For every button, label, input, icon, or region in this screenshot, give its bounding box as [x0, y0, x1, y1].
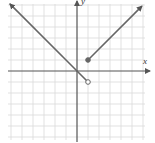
right-piece-line — [88, 6, 142, 60]
piecewise-function-graph — [0, 0, 155, 143]
y-axis-label: y — [81, 0, 85, 6]
x-axis-label: x — [143, 57, 147, 66]
filled-point-marker — [86, 58, 91, 63]
open-point-marker — [86, 80, 91, 85]
axes — [8, 1, 150, 142]
